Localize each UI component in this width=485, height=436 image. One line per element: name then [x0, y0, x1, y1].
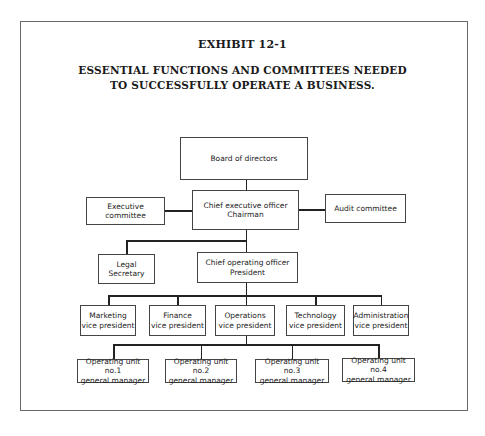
vp-box-finance: Finance vice president: [149, 305, 206, 336]
vp-box-marketing: Marketing vice president: [80, 305, 136, 336]
operating-unit-box-2: Operating unit no.2 general manager: [165, 359, 237, 383]
connector-ceo-audit: [299, 209, 325, 211]
connector-vp-drop-4: [315, 295, 317, 305]
connector-legal-bar: [126, 240, 247, 242]
vp-box-operations: Operations vice president: [215, 305, 275, 336]
connector-legal-drop: [126, 240, 128, 254]
exhibit-title-line-1: ESSENTIAL FUNCTIONS AND COMMITTEES NEEDE…: [0, 63, 485, 78]
exhibit-label: EXHIBIT 12-1: [0, 38, 485, 51]
vp-box-administration: Administration vice president: [353, 305, 409, 336]
exhibit-title-line-2: TO SUCCESSFULLY OPERATE A BUSINESS.: [0, 78, 485, 93]
operating-unit-box-1: Operating unit no.1 general manager: [77, 359, 149, 383]
vp-box-technology: Technology vice president: [286, 305, 345, 336]
ceo-box: Chief executive officer Chairman: [192, 190, 299, 230]
legal-secretary-box: Legal Secretary: [98, 254, 155, 284]
connector-vp-drop-2: [177, 295, 179, 305]
connector-vp-drop-5: [381, 295, 383, 305]
connector-coo-down: [246, 283, 248, 295]
operating-unit-box-4: Operating unit no.4 general manager: [342, 358, 415, 382]
exhibit-title: ESSENTIAL FUNCTIONS AND COMMITTEES NEEDE…: [0, 63, 485, 93]
audit-committee-box: Audit committee: [325, 194, 406, 223]
executive-committee-box: Executive committee: [86, 197, 165, 225]
connector-exec-ceo: [165, 210, 192, 212]
connector-unit-bus: [113, 344, 379, 346]
connector-vp-drop-1: [108, 295, 110, 305]
operating-unit-box-3: Operating unit no.3 general manager: [255, 359, 329, 383]
connector-vp-drop-3: [246, 295, 248, 305]
board-of-directors-box: Board of directors: [180, 137, 308, 180]
coo-box: Chief operating officer President: [197, 252, 298, 283]
